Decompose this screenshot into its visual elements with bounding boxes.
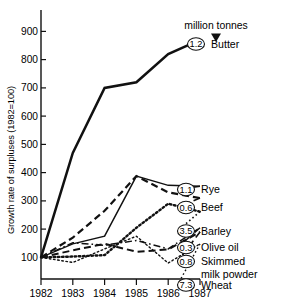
value-bubble-text-butter: 1.2 [190, 39, 203, 49]
y-tick-label: 900 [21, 26, 38, 37]
legend: 1.2Butter1.1Rye0.6Beef3.5Barley0.3Olive … [178, 38, 258, 291]
line-chart-figure: Growth rate of surpluses (1982=100) 100 … [0, 0, 282, 307]
x-tick-label: 1984 [93, 288, 116, 299]
value-bubble-text-rye: 1.1 [180, 185, 193, 195]
legend-label-butter: Butter [211, 38, 240, 50]
y-tick-label: 100 [21, 252, 38, 263]
value-bubble-text-skimmed: 0.8 [180, 257, 193, 267]
data-series-layer [41, 40, 200, 263]
x-tick-label: 1986 [157, 288, 180, 299]
series-line-skimmed-milk-powder [41, 232, 200, 257]
y-tick-label: 500 [21, 139, 38, 150]
y-tick-label: 300 [21, 195, 38, 206]
y-axis-title: Growth rate of surpluses (1982=100) [6, 86, 16, 234]
y-tick-label: 600 [21, 111, 38, 122]
series-line-barley [41, 204, 200, 258]
y-tick-label: 400 [21, 167, 38, 178]
series-line-butter [41, 40, 200, 258]
legend-label-wheat: Wheat [201, 279, 232, 291]
value-bubble-text-olive-oil: 0.3 [180, 243, 193, 253]
value-bubble-text-barley: 3.5 [180, 226, 193, 236]
chart-container: Growth rate of surpluses (1982=100) 100 … [0, 0, 282, 307]
value-bubble-text-beef: 0.6 [180, 203, 193, 213]
legend-label-rye: Rye [201, 183, 220, 195]
legend-label-olive-oil: Olive oil [201, 241, 239, 253]
y-axis-ticks: 100 200 300 400 500 600 700 800 900 [21, 26, 46, 263]
y-tick-label: 200 [21, 224, 38, 235]
value-bubble-text-wheat: 7.3 [180, 280, 193, 290]
y-tick-label: 800 [21, 54, 38, 65]
legend-label-beef: Beef [201, 201, 223, 213]
y-tick-label: 700 [21, 82, 38, 93]
x-tick-label: 1983 [61, 288, 84, 299]
legend-label-skimmed: Skimmed [201, 255, 245, 267]
x-tick-label: 1982 [29, 288, 52, 299]
legend-label-barley: Barley [201, 225, 232, 237]
annotation-label: million tonnes [184, 20, 248, 31]
x-tick-label: 1985 [125, 288, 148, 299]
